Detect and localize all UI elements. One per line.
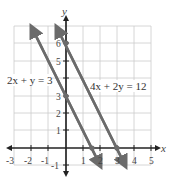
grid [14, 26, 151, 165]
x-tick-label: -1 [41, 156, 49, 166]
x-tick-label: 4 [132, 156, 137, 166]
x-tick-label: -3 [6, 156, 14, 166]
equation-label-1: 2x + y = 3 [7, 74, 52, 86]
y-tick-label: 6 [56, 39, 61, 49]
x-tick-label: 5 [149, 156, 154, 166]
y-tick-label: 1 [56, 126, 61, 136]
x-axis-label: x [161, 143, 166, 153]
equation-label-2: 4x + 2y = 12 [90, 80, 146, 92]
x-tick-label: -2 [24, 156, 32, 166]
y-tick-label: -1 [51, 161, 59, 171]
y-tick-label: 5 [56, 57, 61, 67]
y-axis-label: y [62, 6, 67, 16]
x-tick-label: 2 [98, 156, 103, 166]
y-tick-label: 3 [56, 92, 61, 102]
x-tick-label: 3 [115, 156, 120, 166]
x-tick-label: 1 [81, 156, 86, 166]
y-tick-label: 2 [56, 109, 61, 119]
